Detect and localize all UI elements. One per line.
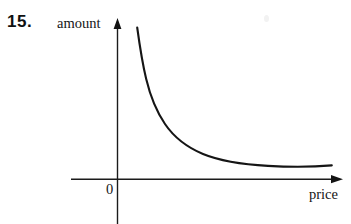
plot-area (0, 0, 351, 224)
y-axis-arrowhead (114, 18, 122, 29)
x-axis-arrowhead (331, 175, 343, 183)
figure-container: 15. amount price 0 (0, 0, 351, 224)
scan-artifact (264, 15, 269, 22)
demand-curve (137, 28, 332, 167)
